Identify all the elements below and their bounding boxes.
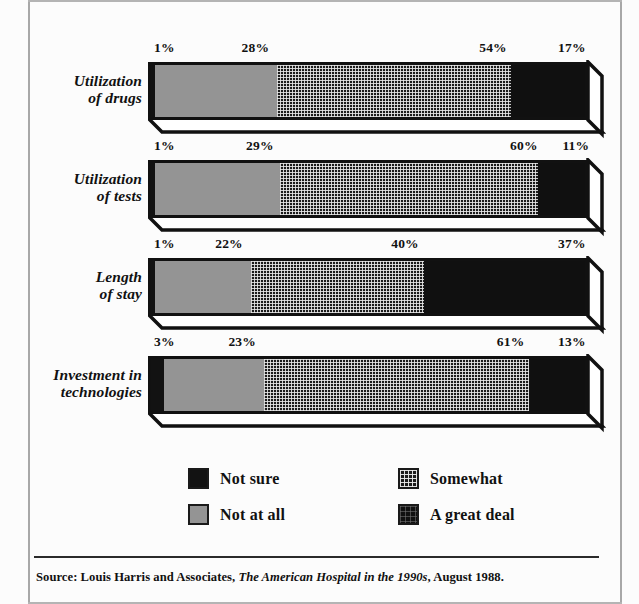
- chart-plot-area: Utilizationof drugs1%28%54%17%Utilizatio…: [0, 0, 639, 460]
- bar-segment-not-sure: [151, 359, 164, 411]
- bar-segment-a-great-deal: [538, 163, 585, 215]
- source-note: Source: Louis Harris and Associates, The…: [36, 570, 504, 585]
- bar-segment-somewhat: [280, 163, 538, 215]
- bar-segment-a-great-deal: [424, 261, 585, 313]
- bar-right-face: [586, 158, 608, 238]
- bar-front-face: [148, 258, 588, 316]
- row-label-line1: Utilization: [20, 72, 142, 89]
- row-category-label: Lengthof stay: [20, 268, 142, 302]
- source-suffix: , August 1988.: [428, 570, 504, 584]
- bar-right-face: [586, 354, 608, 434]
- data-label-a-great-deal: 11%: [562, 138, 589, 154]
- row-label-line1: Utilization: [20, 170, 142, 187]
- chart-legend: Not sureSomewhatNot at allA great deal: [0, 462, 639, 542]
- stacked-bar: [148, 356, 588, 414]
- data-label-a-great-deal: 13%: [558, 334, 586, 350]
- data-label-not-at-all: 23%: [228, 334, 256, 350]
- row-category-label: Utilizationof drugs: [20, 72, 142, 106]
- legend-item[interactable]: Not at all: [188, 504, 285, 525]
- legend-label: A great deal: [430, 506, 515, 524]
- legend-swatch-solid-gray: [188, 504, 209, 525]
- data-label-somewhat: 61%: [497, 334, 525, 350]
- source-prefix: Source: Louis Harris and Associates,: [36, 570, 238, 584]
- bar-front-face: [148, 62, 588, 120]
- data-label-a-great-deal: 37%: [558, 236, 586, 252]
- bar-segment-not-at-all: [155, 261, 250, 313]
- data-label-somewhat: 54%: [479, 40, 507, 56]
- stacked-bar: [148, 258, 588, 316]
- bar-front-face: [148, 160, 588, 218]
- row-label-line2: technologies: [20, 383, 142, 400]
- data-label-not-sure: 1%: [154, 138, 175, 154]
- legend-label: Somewhat: [430, 470, 503, 488]
- data-label-not-at-all: 29%: [246, 138, 274, 154]
- legend-swatch-dotted-grid: [398, 468, 419, 489]
- bar-segment-a-great-deal: [529, 359, 585, 411]
- source-title: The American Hospital in the 1990s: [238, 570, 427, 584]
- bar-bottom-face: [148, 118, 610, 140]
- bar-bottom-face: [148, 314, 610, 336]
- bar-segment-somewhat: [277, 65, 511, 117]
- bar-segment-not-at-all: [155, 163, 280, 215]
- data-label-somewhat: 40%: [391, 236, 419, 252]
- legend-item[interactable]: A great deal: [398, 504, 515, 525]
- bar-front-face: [148, 356, 588, 414]
- data-label-not-at-all: 22%: [215, 236, 243, 252]
- row-category-label: Utilizationof tests: [20, 170, 142, 204]
- row-label-line2: of tests: [20, 187, 142, 204]
- row-label-line1: Investment in: [20, 366, 142, 383]
- legend-label: Not sure: [220, 470, 280, 488]
- bar-segment-not-at-all: [155, 65, 277, 117]
- data-label-not-sure: 1%: [154, 236, 175, 252]
- bar-segment-not-at-all: [164, 359, 264, 411]
- legend-swatch-dark-textured: [398, 504, 419, 525]
- data-label-not-sure: 3%: [154, 334, 175, 350]
- legend-label: Not at all: [220, 506, 285, 524]
- bar-right-face: [586, 256, 608, 336]
- stacked-bar: [148, 62, 588, 120]
- bar-bottom-face: [148, 412, 610, 434]
- legend-swatch-solid-black: [188, 468, 209, 489]
- row-label-line2: of stay: [20, 285, 142, 302]
- data-label-a-great-deal: 17%: [558, 40, 586, 56]
- bar-bottom-face: [148, 216, 610, 238]
- legend-item[interactable]: Not sure: [188, 468, 280, 489]
- data-label-somewhat: 60%: [510, 138, 538, 154]
- bar-segment-somewhat: [251, 261, 425, 313]
- row-label-line1: Length: [20, 268, 142, 285]
- bar-segment-somewhat: [264, 359, 529, 411]
- data-label-not-at-all: 28%: [242, 40, 270, 56]
- row-category-label: Investment intechnologies: [20, 366, 142, 400]
- chart-page: Utilizationof drugs1%28%54%17%Utilizatio…: [0, 0, 639, 604]
- row-label-line2: of drugs: [20, 89, 142, 106]
- stacked-bar: [148, 160, 588, 218]
- data-label-not-sure: 1%: [154, 40, 175, 56]
- bar-right-face: [586, 60, 608, 140]
- source-divider-rule: [34, 556, 599, 558]
- bar-segment-a-great-deal: [511, 65, 585, 117]
- legend-item[interactable]: Somewhat: [398, 468, 503, 489]
